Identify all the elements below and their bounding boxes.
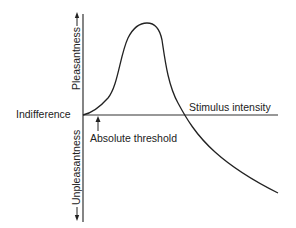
threshold-arrowhead-icon: [96, 116, 101, 122]
unpleasantness-label: Unpleasantness: [70, 130, 82, 205]
threshold-label: Absolute threshold: [90, 132, 177, 144]
indifference-label: Indifference: [16, 108, 71, 120]
up-arrow-icon: [75, 12, 79, 18]
x-axis-label: Stimulus intensity: [189, 101, 271, 113]
pleasantness-label: Pleasantness: [70, 27, 82, 90]
down-arrow-icon: [75, 215, 79, 221]
